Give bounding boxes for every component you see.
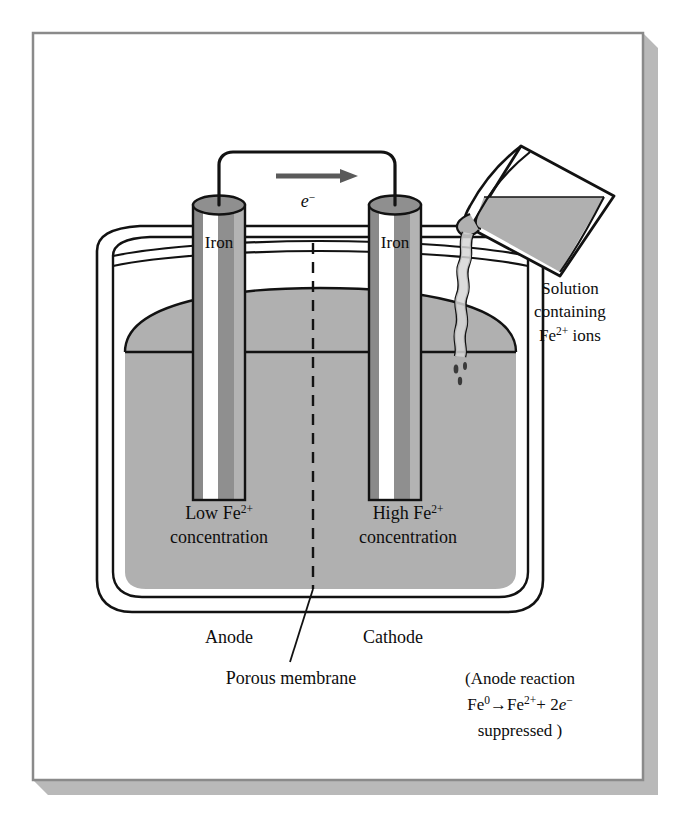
anode-label: Anode: [205, 627, 253, 647]
electrode-right-shade-r: [410, 205, 421, 500]
stream-droplet-2: [463, 362, 467, 370]
solution-body: [125, 352, 516, 589]
electrode-right: Iron: [369, 196, 421, 501]
reaction-note-line1: (Anode reaction: [465, 669, 575, 688]
pour-species-tail: ions: [568, 326, 601, 345]
pour-label-line1: Solution: [541, 279, 599, 298]
halfcell-right-level: High: [373, 503, 409, 523]
halfcell-left-charge: 2+: [241, 503, 253, 515]
stream-droplet-3: [458, 377, 462, 385]
pour-label-line2: containing: [534, 302, 606, 321]
cathode-label: Cathode: [363, 627, 423, 647]
reaction-reagent: Fe: [467, 695, 484, 714]
reaction-product-sup: 2+: [524, 694, 536, 706]
reaction-electron-sup: −: [566, 694, 573, 706]
halfcell-right-line2: concentration: [359, 527, 457, 547]
halfcell-left-species: Fe: [223, 503, 241, 523]
reaction-arrow: →: [490, 695, 507, 714]
pour-species-charge: 2+: [556, 325, 568, 337]
halfcell-left-line2: concentration: [170, 527, 268, 547]
electrode-left: Iron: [193, 196, 245, 501]
pour-label-line3: Fe2+ ions: [539, 325, 601, 345]
membrane-label: Porous membrane: [226, 668, 356, 688]
reaction-plus: + 2: [536, 695, 558, 714]
pour-species: Fe: [539, 326, 556, 345]
halfcell-right-species: Fe: [413, 503, 431, 523]
electrode-right-label: Iron: [381, 233, 410, 252]
stream-droplet-1: [454, 364, 459, 373]
electron-charge: −: [309, 191, 316, 203]
electron-symbol: e: [301, 191, 309, 211]
figure-page: Iron Iron e−: [0, 0, 686, 813]
electrode-left-shade-r: [234, 205, 245, 500]
electrode-left-shade-l: [193, 205, 203, 500]
halfcell-right-charge: 2+: [431, 503, 443, 515]
reaction-product: Fe: [507, 695, 524, 714]
reaction-note-equation: Fe0→Fe2++ 2e−: [467, 694, 572, 714]
reaction-note-line3: suppressed ): [478, 721, 563, 740]
concentration-cell-figure: Iron Iron e−: [0, 0, 686, 813]
electrode-right-shade-l: [369, 205, 379, 500]
halfcell-left-level: Low: [185, 503, 218, 523]
electrode-left-label: Iron: [205, 233, 234, 252]
